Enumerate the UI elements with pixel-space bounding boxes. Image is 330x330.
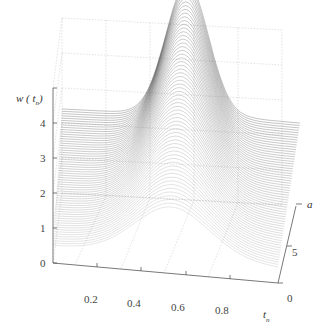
mesh-line: [54, 177, 281, 248]
x-tick-0.6: 0.6: [171, 301, 185, 313]
mesh-line: [58, 91, 290, 192]
mesh-line: [59, 58, 293, 171]
mesh-line: [61, 0, 298, 133]
y-axis-line: [278, 206, 296, 283]
y-axis-label: a: [307, 198, 313, 210]
mesh-line: [60, 35, 295, 156]
x-tick-0.4: 0.4: [127, 297, 141, 309]
x-tick-0.2: 0.2: [84, 293, 98, 305]
mesh-line: [61, 17, 297, 145]
mesh-line: [60, 39, 295, 159]
z-tick-0: 0: [40, 257, 46, 269]
mesh-line: [59, 50, 293, 166]
mesh-line: [53, 200, 278, 263]
mesh-line: [59, 65, 292, 176]
surface-plot: 0 1 2 3 4 w ( tn) 0.2 0.4 0.6 0.8 tn 0 5…: [0, 0, 330, 330]
mesh-line: [53, 207, 278, 267]
mesh-line: [58, 84, 290, 188]
z-axis-label: w ( tn): [16, 92, 43, 107]
x-axis-label: tn: [263, 308, 270, 324]
mesh-line: [54, 185, 280, 253]
mesh-line: [61, 9, 297, 140]
mesh-line: [59, 69, 292, 179]
x-axis-line: [53, 263, 278, 283]
z-tick-1: 1: [40, 222, 46, 234]
mesh-line: [60, 47, 294, 164]
mesh-line: [57, 114, 287, 208]
y-tick-5: 5: [292, 246, 298, 258]
y-tick-0: 0: [287, 292, 293, 304]
mesh-line: [61, 2, 298, 135]
z-ticks: [53, 88, 57, 263]
x-tick-0.8: 0.8: [215, 304, 229, 316]
mesh-line: [61, 21, 297, 148]
z-tick-3: 3: [40, 152, 46, 164]
surface-mesh: [53, 0, 300, 267]
mesh-line: [56, 140, 285, 224]
mesh-line: [54, 192, 280, 257]
z-tick-2: 2: [40, 187, 46, 199]
mesh-line: [56, 132, 285, 219]
z-tick-4: 4: [40, 117, 46, 129]
mesh-line: [56, 136, 285, 222]
mesh-line: [61, 13, 297, 142]
mesh-line: [57, 106, 288, 202]
mesh-line: [55, 170, 282, 243]
mesh-line: [58, 95, 290, 195]
